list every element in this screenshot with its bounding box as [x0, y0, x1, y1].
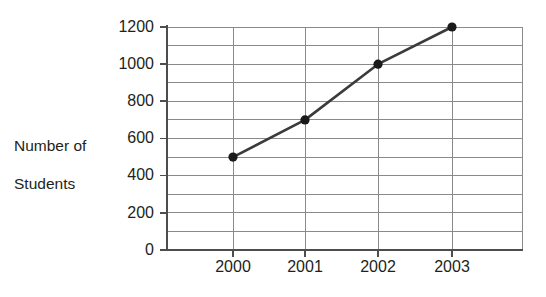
x-axis-ticks [233, 250, 452, 257]
data-line-number-of-students [233, 27, 452, 157]
line-chart: Number of Students 1200 1000 800 600 400… [0, 0, 546, 297]
horizontal-gridlines [167, 45, 522, 231]
data-point-2002 [373, 60, 382, 69]
data-point-2000 [228, 153, 237, 162]
data-point-2001 [300, 115, 309, 124]
chart-canvas [0, 0, 546, 297]
y-axis-ticks [160, 27, 167, 250]
data-point-2003 [447, 22, 456, 31]
